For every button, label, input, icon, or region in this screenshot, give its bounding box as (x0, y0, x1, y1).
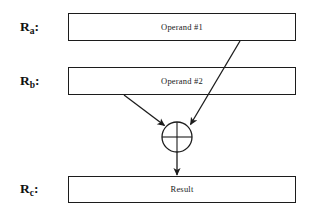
register-label-rb: Rb: (20, 74, 40, 88)
connector-operand2-to-adder (124, 95, 165, 126)
register-label-rc-colon: : (34, 181, 39, 196)
register-label-rc-base: R (20, 181, 30, 196)
operand-1-label: Operand #1 (161, 23, 203, 32)
result-box: Result (68, 176, 296, 203)
register-label-rb-base: R (20, 73, 30, 88)
register-label-ra-subscript: a (30, 26, 35, 36)
operand-2-box: Operand #2 (68, 67, 296, 95)
adder-symbol-hitbox (162, 122, 192, 152)
register-label-ra: Ra: (20, 20, 39, 34)
register-label-ra-base: R (20, 19, 30, 34)
register-label-rc-subscript: c (30, 188, 34, 198)
result-label: Result (171, 185, 194, 194)
operand-2-label: Operand #2 (161, 77, 203, 86)
register-label-rb-colon: : (35, 73, 40, 88)
diagram-canvas: Ra: Rb: Rc: Operand #1 Operand #2 Result (0, 0, 310, 215)
register-label-ra-colon: : (35, 19, 40, 34)
register-label-rb-subscript: b (30, 80, 35, 90)
register-label-rc: Rc: (20, 182, 38, 196)
operand-1-box: Operand #1 (68, 13, 296, 41)
